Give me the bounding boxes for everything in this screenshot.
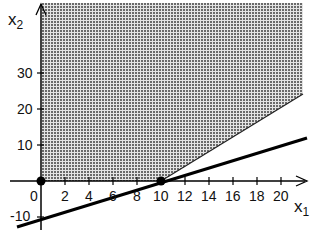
- x-tick-label: 8: [133, 189, 141, 203]
- x-tick-label: 20: [273, 189, 289, 203]
- x-tick-label: 12: [177, 189, 193, 203]
- x-tick-label: 6: [109, 189, 117, 203]
- x-axis-label-text: x: [294, 197, 303, 216]
- x-tick-label: 18: [249, 189, 265, 203]
- origin-point: [37, 177, 46, 186]
- x-axis-label: x1: [294, 198, 309, 218]
- feasible-region: [42, 3, 303, 181]
- x-tick-label: 14: [201, 189, 217, 203]
- y-axis-label-text: x: [8, 10, 17, 29]
- x-tick-label: 4: [85, 189, 93, 203]
- intercept-point-10-0: [157, 177, 166, 186]
- x-tick-label: 16: [225, 189, 241, 203]
- x-tick-label: 2: [61, 189, 69, 203]
- x-axis-label-sub: 1: [303, 205, 310, 219]
- y-axis-label-sub: 2: [17, 18, 24, 32]
- y-tick-label: 20: [17, 102, 33, 116]
- y-tick-label: 10: [17, 138, 33, 152]
- y-tick-label: -10: [10, 209, 30, 223]
- y-tick-label: 30: [17, 66, 33, 80]
- y-axis-label: x2: [8, 11, 23, 31]
- x-tick-label: 10: [153, 189, 169, 203]
- x-tick-label: 0: [30, 189, 38, 203]
